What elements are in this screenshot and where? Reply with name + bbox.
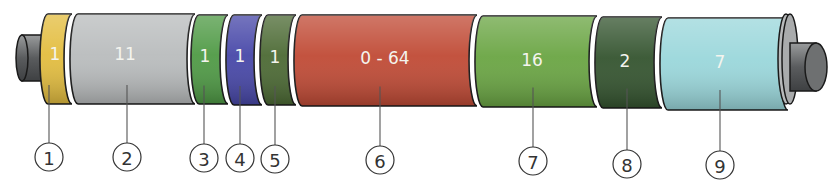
segment-4: 1 bbox=[226, 15, 262, 105]
segment-8: 2 bbox=[595, 17, 662, 108]
segment-5: 1 bbox=[260, 15, 296, 105]
callout-number: 8 bbox=[621, 155, 632, 176]
segment-2: 11 bbox=[70, 14, 195, 104]
segment-value-label: 7 bbox=[715, 52, 726, 72]
callout-number: 4 bbox=[234, 149, 245, 170]
segment-value-label: 1 bbox=[235, 46, 246, 66]
segment-6: 0 - 64 bbox=[294, 15, 477, 106]
callout-number: 1 bbox=[43, 148, 54, 169]
segments: 1111110 - 641627 bbox=[40, 14, 788, 110]
segment-value-label: 11 bbox=[114, 44, 136, 64]
segment-9: 7 bbox=[660, 18, 788, 110]
segment-value-label: 1 bbox=[200, 46, 211, 66]
callout-number: 9 bbox=[714, 156, 725, 177]
segment-7: 16 bbox=[475, 16, 597, 107]
segment-value-label: 0 - 64 bbox=[360, 48, 409, 68]
callout-number: 2 bbox=[121, 148, 132, 169]
segment-value-label: 1 bbox=[50, 44, 61, 64]
segment-value-label: 2 bbox=[620, 51, 631, 71]
callout-number: 6 bbox=[374, 151, 385, 172]
cylinder-diagram: 1111110 - 641627 123456789 bbox=[0, 0, 834, 187]
callout-number: 3 bbox=[198, 149, 209, 170]
segment-value-label: 16 bbox=[521, 50, 543, 70]
callout-number: 5 bbox=[269, 150, 280, 171]
segment-3: 1 bbox=[191, 15, 228, 104]
right-shaft-stub bbox=[778, 14, 827, 104]
segment-1: 1 bbox=[40, 14, 72, 104]
segment-value-label: 1 bbox=[270, 47, 281, 67]
callout-number: 7 bbox=[527, 152, 538, 173]
